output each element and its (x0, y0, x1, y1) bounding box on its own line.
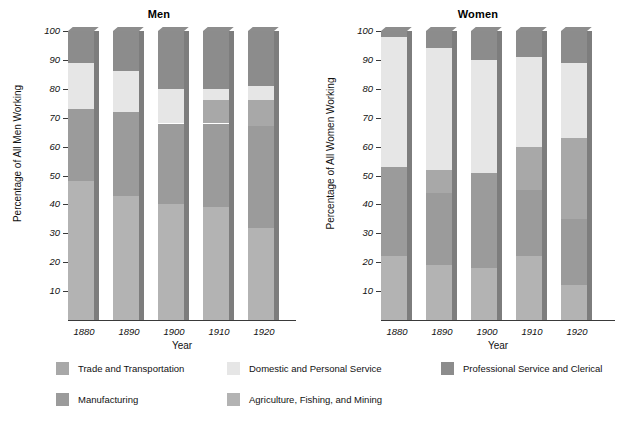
bar-side-shadow (94, 31, 99, 320)
bar-segment-domestic (113, 71, 139, 111)
legend-swatch-professional-service-and-clerical (441, 362, 454, 375)
bar-segment-domestic (68, 63, 94, 109)
x-tick-label: 1880 (375, 326, 419, 337)
y-tick-label: 90 (26, 55, 60, 65)
legend-swatch-domestic-and-personal-service (227, 362, 240, 375)
bar-segment-manufacturing (248, 126, 274, 227)
bar-segment-trade (203, 100, 229, 123)
bar-segment-manufacturing (561, 219, 587, 285)
bar-men-1910[interactable] (203, 31, 235, 320)
bar-top-shadow (471, 27, 502, 31)
bar-side-shadow (274, 31, 279, 320)
bar-women-1910[interactable] (516, 31, 548, 320)
bar-men-1890[interactable] (113, 31, 145, 320)
bar-segment-professional (471, 31, 497, 60)
bar-side-shadow (184, 31, 189, 320)
bar-segment-manufacturing (113, 112, 139, 196)
bar-segment-agriculture (381, 256, 407, 320)
bar-segment-domestic (203, 89, 229, 101)
x-tick-label: 1910 (197, 326, 241, 337)
y-tick-label: 50 (26, 171, 60, 181)
bar-men-1880[interactable] (68, 31, 100, 320)
y-tick-label: 40 (339, 199, 373, 209)
legend-swatch-agriculture-fishing-and-mining (227, 393, 240, 406)
y-tick-label: 80 (26, 84, 60, 94)
y-tick-label: 70 (339, 113, 373, 123)
bar-segment-domestic (471, 60, 497, 173)
y-tick-label: 80 (339, 84, 373, 94)
bar-side-shadow (407, 31, 412, 320)
bar-side-shadow (587, 31, 592, 320)
bar-segment-agriculture (471, 268, 497, 320)
plot-area-women: 18801890190019101920 (381, 31, 597, 320)
bar-segment-domestic (248, 86, 274, 100)
bar-segment-professional (203, 31, 229, 89)
bar-segment-domestic (381, 37, 407, 167)
legend-label: Manufacturing (78, 394, 138, 405)
bar-segment-professional (381, 31, 407, 37)
bar-segment-agriculture (68, 181, 94, 320)
bar-segment-manufacturing (68, 109, 94, 181)
panel-women: Women Percentage of All Women Working 10… (319, 0, 637, 352)
bar-segment-agriculture (516, 256, 542, 320)
bar-top-shadow (516, 27, 547, 31)
bar-segment-agriculture (426, 265, 452, 320)
bar-segment-domestic (516, 57, 542, 147)
y-tick-label: 20 (26, 257, 60, 267)
legend-item-trade-and-transportation[interactable]: Trade and Transportation (56, 362, 184, 375)
y-tick-label: 70 (26, 113, 60, 123)
bar-segment-agriculture (561, 285, 587, 320)
bar-segment-manufacturing (203, 124, 229, 208)
bar-side-shadow (497, 31, 502, 320)
y-tick-label: 90 (339, 55, 373, 65)
bar-segment-trade (248, 100, 274, 126)
bar-women-1880[interactable] (381, 31, 413, 320)
y-tick-label: 40 (26, 199, 60, 209)
x-tick-label: 1920 (242, 326, 286, 337)
bar-segment-professional (68, 31, 94, 63)
legend-label: Agriculture, Fishing, and Mining (249, 394, 382, 405)
bar-women-1900[interactable] (471, 31, 503, 320)
bar-segment-trade (426, 170, 452, 193)
legend: Trade and Transportation Domestic and Pe… (0, 356, 637, 421)
y-axis-label-women: Percentage of All Women Working (325, 44, 336, 264)
panel-men: Men Percentage of All Men Working 100 90… (0, 0, 318, 352)
y-tick-label: 10 (26, 286, 60, 296)
bar-side-shadow (139, 31, 144, 320)
bar-segment-professional (516, 31, 542, 57)
bar-women-1920[interactable] (561, 31, 593, 320)
bar-side-shadow (229, 31, 234, 320)
x-tick-label: 1920 (555, 326, 599, 337)
bar-men-1920[interactable] (248, 31, 280, 320)
x-axis-label-women: Year (381, 340, 615, 351)
bar-segment-domestic (426, 48, 452, 169)
bar-segment-professional (426, 31, 452, 48)
y-tick-label: 50 (339, 171, 373, 181)
legend-item-professional-service-and-clerical[interactable]: Professional Service and Clerical (441, 362, 602, 375)
bar-top-shadow (426, 27, 457, 31)
bar-top-shadow (203, 27, 234, 31)
y-tick-label: 60 (26, 142, 60, 152)
bar-segment-manufacturing (381, 167, 407, 257)
bar-women-1890[interactable] (426, 31, 458, 320)
y-tick-label: 100 (26, 26, 60, 36)
legend-label: Trade and Transportation (78, 363, 184, 374)
panel-title-women: Women (319, 8, 637, 20)
y-tick-label: 60 (339, 142, 373, 152)
legend-item-domestic-and-personal-service[interactable]: Domestic and Personal Service (227, 362, 382, 375)
legend-item-manufacturing[interactable]: Manufacturing (56, 393, 138, 406)
x-tick-label: 1900 (152, 326, 196, 337)
bar-segment-trade (516, 147, 542, 190)
bar-segment-agriculture (113, 196, 139, 320)
bar-segment-domestic (561, 63, 587, 138)
bar-men-1900[interactable] (158, 31, 190, 320)
panel-title-men: Men (0, 8, 318, 20)
y-axis-label-men: Percentage of All Men Working (12, 44, 23, 264)
bar-segment-professional (113, 31, 139, 71)
x-tick-label: 1900 (465, 326, 509, 337)
y-tick-label: 30 (339, 228, 373, 238)
legend-label: Professional Service and Clerical (463, 363, 602, 374)
legend-item-agriculture-fishing-and-mining[interactable]: Agriculture, Fishing, and Mining (227, 393, 382, 406)
bar-segment-agriculture (158, 204, 184, 320)
bar-top-shadow (113, 27, 144, 31)
